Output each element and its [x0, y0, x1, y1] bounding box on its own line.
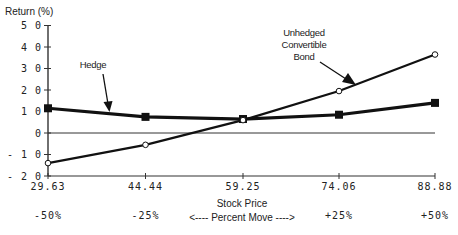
percent-move-label: -50% [34, 210, 62, 221]
percent-move-label: +50% [421, 210, 449, 221]
percent-move-label: -25% [131, 210, 159, 221]
y-ticks: 5 04 03 02 01 00- 1 0- 2 0 [7, 20, 51, 182]
arrow-head-icon [104, 101, 113, 112]
data-point-circle-marker [45, 160, 51, 166]
data-point-square-marker [335, 111, 343, 119]
data-point-circle-marker [336, 88, 342, 94]
data-point-square-marker [44, 104, 52, 112]
percent-move-labels: -50%-25%+25%+50%<---- Percent Move ----> [34, 210, 449, 223]
y-tick-label: 0 [35, 128, 42, 139]
y-tick-label: 4 0 [21, 42, 42, 53]
y-tick-label: 5 0 [21, 20, 42, 31]
data-point-square-marker [431, 99, 439, 107]
x-axis-label: Stock Price [217, 198, 268, 209]
x-tick-label: 74.06 [321, 181, 356, 192]
x-tick-label: 88.88 [417, 181, 452, 192]
y-axis-title: Return (%) [5, 6, 53, 17]
unhedged-annotation-line: Convertible [282, 39, 327, 50]
unhedged-annotation-line: Unhedged [283, 27, 324, 38]
hedge-arrow-line [103, 74, 108, 104]
chart: Return (%) 5 04 03 02 01 00- 1 0- 2 0 29… [0, 0, 458, 235]
data-point-circle-marker [143, 142, 149, 148]
data-point-square-marker [142, 113, 150, 121]
y-tick-label: - 1 0 [7, 149, 42, 160]
axes [48, 26, 435, 177]
y-axis-label: Return (%) [5, 6, 53, 17]
percent-move-caption: <---- Percent Move ----> [189, 212, 295, 223]
hedge-annotation: Hedge [80, 59, 107, 70]
y-tick-label: - 2 0 [7, 171, 42, 182]
y-tick-label: 1 0 [21, 106, 42, 117]
percent-move-label: +25% [325, 210, 353, 221]
arrow-head-icon [342, 73, 356, 85]
data-point-circle-marker [432, 52, 438, 58]
data-point-circle-marker [240, 117, 246, 123]
y-tick-label: 2 0 [21, 85, 42, 96]
unhedged-annotation-line: Bond [294, 51, 315, 62]
x-tick-label: 29.63 [30, 181, 65, 192]
x-tick-label: 44.44 [128, 181, 163, 192]
y-tick-label: 3 0 [21, 63, 42, 74]
x-tick-label: 59.25 [225, 181, 260, 192]
unhedged-arrow-line [320, 62, 346, 79]
